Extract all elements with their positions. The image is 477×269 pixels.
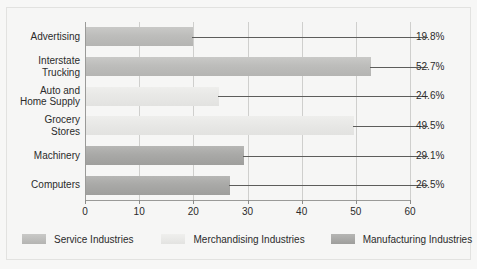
tick-label: 40 xyxy=(296,206,307,217)
tick-mark xyxy=(139,200,140,204)
value-label: 26.5% xyxy=(416,179,444,191)
tick-mark xyxy=(410,200,411,204)
bar-row xyxy=(86,176,230,195)
tick-mark xyxy=(248,200,249,204)
leader-line xyxy=(229,185,428,186)
legend-swatch-icon xyxy=(22,234,46,244)
gridline xyxy=(139,22,140,200)
bar-chart-figure: Advertising Interstate Trucking Auto and… xyxy=(0,0,477,269)
gridline xyxy=(193,22,194,200)
value-label: 24.6% xyxy=(416,90,444,102)
value-label: 49.5% xyxy=(416,120,444,132)
value-label: 52.7% xyxy=(416,61,444,73)
value-labels-group: 19.8% 52.7% 24.6% 49.5% 29.1% 26.5% xyxy=(416,22,474,200)
bar xyxy=(86,57,371,76)
bar xyxy=(86,27,193,46)
category-label: Advertising xyxy=(2,31,80,43)
tick-label: 20 xyxy=(188,206,199,217)
bar-row xyxy=(86,57,371,76)
legend-label: Merchandising Industries xyxy=(193,234,304,245)
legend-swatch-icon xyxy=(331,234,355,244)
bar xyxy=(86,146,244,165)
tick-mark xyxy=(193,200,194,204)
chart-legend: Service Industries Merchandising Industr… xyxy=(22,230,458,248)
bar-row xyxy=(86,27,193,46)
category-axis-labels: Advertising Interstate Trucking Auto and… xyxy=(0,22,80,200)
tick-mark xyxy=(85,200,86,204)
legend-item-service: Service Industries xyxy=(22,234,133,245)
legend-item-merchandising: Merchandising Industries xyxy=(161,234,304,245)
legend-label: Service Industries xyxy=(54,234,133,245)
legend-label: Manufacturing Industries xyxy=(363,234,473,245)
category-label: Grocery Stores xyxy=(2,114,80,137)
gridline xyxy=(410,22,411,200)
gridline xyxy=(302,22,303,200)
bar xyxy=(86,116,354,135)
tick-mark xyxy=(356,200,357,204)
leader-line xyxy=(192,37,428,38)
gridline xyxy=(248,22,249,200)
value-label: 29.1% xyxy=(416,150,444,162)
category-label: Machinery xyxy=(2,150,80,162)
bar-row xyxy=(86,146,244,165)
bar xyxy=(86,176,230,195)
plot-area xyxy=(85,22,410,200)
bar xyxy=(86,87,219,106)
tick-label: 50 xyxy=(350,206,361,217)
bar-row xyxy=(86,87,219,106)
tick-label: 0 xyxy=(82,206,88,217)
tick-label: 60 xyxy=(404,206,415,217)
tick-label: 10 xyxy=(134,206,145,217)
gridline xyxy=(356,22,357,200)
category-label: Computers xyxy=(2,179,80,191)
value-label: 19.8% xyxy=(416,31,444,43)
legend-item-manufacturing: Manufacturing Industries xyxy=(331,234,473,245)
category-label: Interstate Trucking xyxy=(2,55,80,78)
x-axis: 0102030405060 xyxy=(85,200,410,220)
tick-label: 30 xyxy=(242,206,253,217)
leader-line xyxy=(218,96,428,97)
category-label: Auto and Home Supply xyxy=(2,85,80,108)
bar-row xyxy=(86,116,354,135)
tick-mark xyxy=(302,200,303,204)
leader-line xyxy=(243,156,428,157)
legend-swatch-icon xyxy=(161,234,185,244)
